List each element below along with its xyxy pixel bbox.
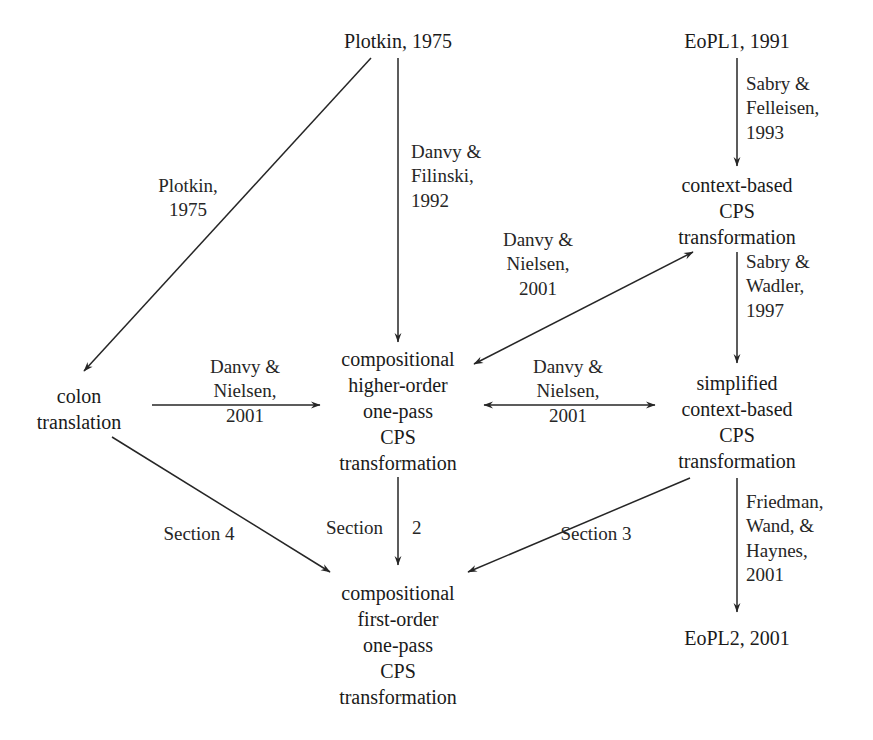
edge-label-danvy-filinski-1992: Danvy & Filinski, 1992 bbox=[411, 140, 481, 213]
edge-label-friedman-wand-haynes-2001: Friedman, Wand, & Haynes, 2001 bbox=[746, 490, 824, 587]
edge-label-danvy-nielsen-2001-diagonal: Danvy & Nielsen, 2001 bbox=[503, 228, 573, 301]
node-eopl2-2001[interactable]: EoPL2, 2001 bbox=[684, 625, 790, 651]
diagram-canvas: Plotkin, 1975 EoPL1, 1991 context-based … bbox=[0, 0, 873, 740]
edge-label-sabry-felleisen-1993: Sabry & Felleisen, 1993 bbox=[746, 72, 819, 145]
edge-label-danvy-nielsen-2001-right: Danvy & Nielsen, 2001 bbox=[533, 355, 603, 428]
node-plotkin-1975[interactable]: Plotkin, 1975 bbox=[344, 28, 452, 54]
edge-label-section-4: Section 4 bbox=[163, 522, 234, 546]
edge-label-danvy-nielsen-2001-left: Danvy & Nielsen, 2001 bbox=[210, 355, 280, 428]
edge-label-plotkin-1975: Plotkin, 1975 bbox=[158, 174, 218, 223]
edge-label-sabry-wadler-1997: Sabry & Wadler, 1997 bbox=[746, 250, 810, 323]
edge-plotkin-to-colon bbox=[84, 58, 371, 371]
node-context-based-cps-transformation[interactable]: context-based CPS transformation bbox=[678, 172, 796, 250]
node-simplified-context-based-cps-transformation[interactable]: simplified context-based CPS transformat… bbox=[678, 370, 796, 474]
edge-label-section-3: Section 3 bbox=[560, 522, 631, 546]
edge-label-section-2-number: 2 bbox=[412, 516, 422, 540]
node-compositional-first-order-one-pass-cps-transformation[interactable]: compositional first-order one-pass CPS t… bbox=[339, 580, 457, 710]
node-compositional-higher-order-one-pass-cps-transformation[interactable]: compositional higher-order one-pass CPS … bbox=[339, 346, 457, 476]
edge-label-section-2: Section bbox=[326, 516, 383, 540]
node-colon-translation[interactable]: colon translation bbox=[37, 383, 121, 435]
node-eopl1-1991[interactable]: EoPL1, 1991 bbox=[684, 28, 790, 54]
edge-colon-to-first-order bbox=[112, 437, 330, 572]
